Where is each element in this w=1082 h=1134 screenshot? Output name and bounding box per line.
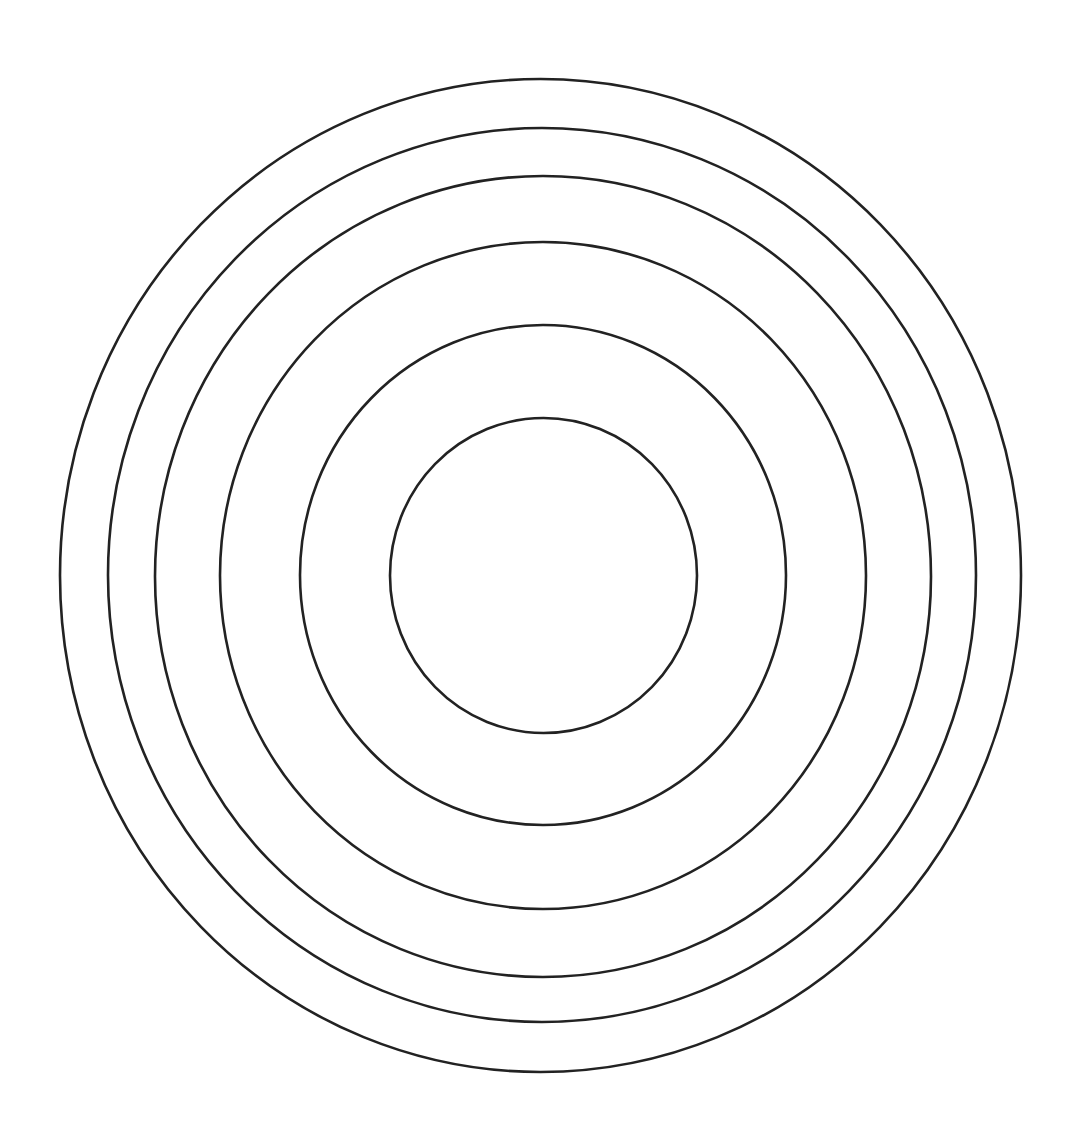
ring-1-innermost (390, 418, 697, 733)
ring-3 (220, 242, 866, 909)
concentric-rings-diagram (0, 0, 1082, 1134)
ring-4 (155, 176, 931, 977)
rings-group (60, 79, 1021, 1072)
ring-2 (300, 325, 786, 825)
ring-5 (108, 128, 976, 1022)
ring-6-outermost (60, 79, 1021, 1072)
